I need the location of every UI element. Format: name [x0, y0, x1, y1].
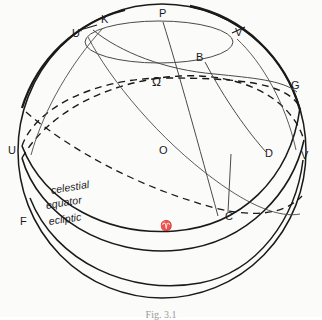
- label-D: D: [265, 148, 273, 159]
- sphere-limb-highlight-top-left: [22, 10, 125, 108]
- label-C: C: [225, 211, 233, 222]
- label-V-prime: V': [235, 27, 244, 38]
- label-U-prime: U': [72, 28, 82, 39]
- figure-caption: Fig. 3.1: [0, 309, 322, 320]
- line-B-to-D: [205, 62, 266, 152]
- label-P: P: [159, 8, 166, 19]
- label-omega: Ω: [152, 76, 161, 88]
- label-G: G: [291, 80, 300, 91]
- meridian-K-left: [31, 28, 103, 155]
- segment-D-to-C: [228, 154, 231, 212]
- circle-U-prime-to-G: [88, 37, 300, 215]
- label-K: K: [101, 14, 108, 25]
- label-O: O: [159, 145, 168, 156]
- celestial-equator-back: [22, 78, 300, 146]
- polar-circle: [85, 21, 233, 63]
- label-U: U: [8, 145, 16, 156]
- label-F: F: [20, 216, 27, 227]
- label-V: V: [301, 150, 308, 161]
- label-aries: ♈: [160, 221, 172, 231]
- hour-circle-through-B: [163, 22, 218, 216]
- label-B: B: [196, 52, 203, 63]
